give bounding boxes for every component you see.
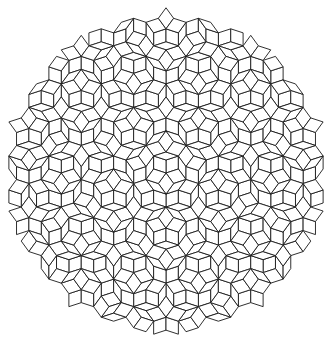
tiling-canvas — [0, 0, 333, 346]
penrose-tiling-figure — [0, 0, 333, 346]
